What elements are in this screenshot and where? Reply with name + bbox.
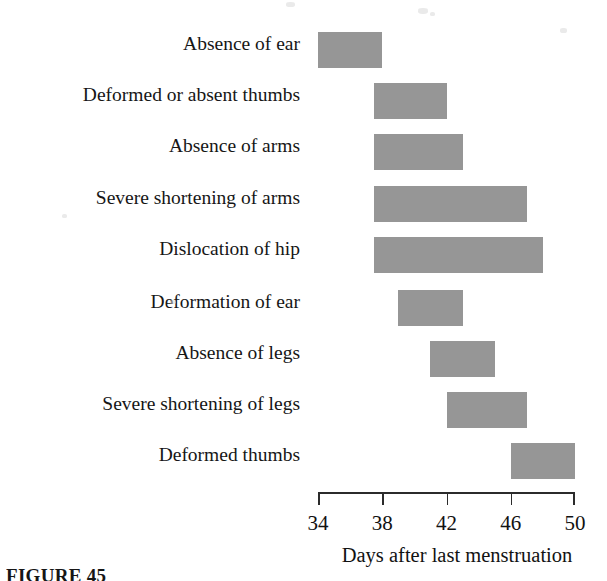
range-bar <box>318 32 382 68</box>
chart-row: Deformed or absent thumbs <box>0 71 607 123</box>
range-bar <box>374 186 527 222</box>
chart-row: Absence of arms <box>0 122 607 174</box>
chart-row: Deformation of ear <box>0 278 607 330</box>
scan-artifact <box>418 8 428 14</box>
bar-category-label: Deformation of ear <box>0 292 300 312</box>
axis-tick-label: 34 <box>296 513 340 534</box>
axis-baseline <box>318 492 575 494</box>
bar-category-label: Severe shortening of legs <box>0 394 300 414</box>
range-bar <box>430 341 494 377</box>
range-bar <box>374 83 446 119</box>
figure-sensitive-periods: Absence of earDeformed or absent thumbsA… <box>0 0 607 581</box>
bar-category-label: Deformed or absent thumbs <box>0 85 300 105</box>
range-bar <box>447 392 527 428</box>
bar-category-label: Absence of legs <box>0 343 300 363</box>
scan-artifact <box>62 214 67 218</box>
chart-row: Absence of legs <box>0 329 607 381</box>
x-axis-label: Days after last menstruation <box>307 545 607 566</box>
chart-row: Absence of ear <box>0 20 607 72</box>
bar-category-label: Dislocation of hip <box>0 239 300 259</box>
axis-tick-label: 46 <box>489 513 533 534</box>
bar-category-label: Deformed thumbs <box>0 445 300 465</box>
range-bar <box>511 443 575 479</box>
axis-tick <box>511 492 513 505</box>
axis-tick <box>447 492 449 505</box>
range-bar <box>374 134 462 170</box>
chart-row: Severe shortening of legs <box>0 380 607 432</box>
chart-row: Severe shortening of arms <box>0 174 607 226</box>
bar-category-label: Absence of arms <box>0 136 300 156</box>
chart-row: Deformed thumbs <box>0 431 607 483</box>
chart-row: Dislocation of hip <box>0 225 607 277</box>
axis-tick-label: 50 <box>553 513 597 534</box>
range-bar <box>398 290 462 326</box>
axis-tick-label: 42 <box>425 513 469 534</box>
axis-tick-label: 38 <box>360 513 404 534</box>
scan-artifact <box>560 28 567 33</box>
scan-artifact <box>430 12 435 16</box>
range-bar <box>374 237 543 273</box>
axis-tick <box>318 492 320 505</box>
figure-caption: FIGURE 45 <box>6 566 106 581</box>
scan-artifact <box>170 300 176 304</box>
scan-artifact <box>286 2 295 7</box>
axis-tick <box>573 492 575 505</box>
bar-category-label: Severe shortening of arms <box>0 188 300 208</box>
axis-tick <box>382 492 384 505</box>
bar-category-label: Absence of ear <box>0 34 300 54</box>
